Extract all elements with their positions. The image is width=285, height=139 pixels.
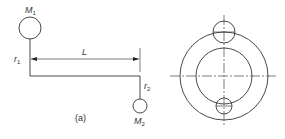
radius1-label: r1: [14, 54, 21, 65]
length-label: L: [82, 47, 87, 57]
mass1-label: M1: [25, 5, 37, 16]
arrow-left-icon: [31, 57, 37, 61]
radius2-label: r2: [144, 81, 151, 92]
mass2-label: M2: [134, 116, 146, 127]
figure-a: M1 r1 L r2 M2 (a): [14, 5, 151, 127]
figure-caption: (a): [75, 113, 86, 123]
figure-b: [170, 15, 278, 127]
mass2-circle: [133, 99, 147, 113]
arrow-right-icon: [133, 57, 139, 61]
mass1-circle: [19, 17, 41, 39]
diagram-canvas: M1 r1 L r2 M2 (a): [0, 0, 285, 139]
